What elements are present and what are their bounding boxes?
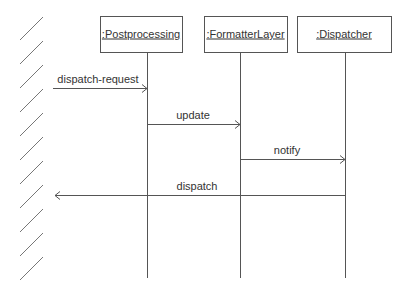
message-label: dispatch-request (57, 73, 138, 86)
boundary-hatch-line (20, 209, 43, 232)
message-label: update (176, 109, 210, 122)
sequence-diagram: :Postprocessing:FormatterLayer:Dispatche… (0, 0, 406, 295)
participant-label: :FormatterLayer (206, 28, 284, 41)
participant-label: :Postprocessing (102, 28, 180, 41)
boundary-hatch-line (20, 137, 43, 160)
participant-label: :Dispatcher (316, 28, 372, 41)
boundary-hatch-line (20, 65, 43, 88)
boundary-hatch-line (20, 89, 43, 112)
message-label: dispatch (177, 180, 218, 193)
diagram-lines (0, 0, 406, 295)
boundary-hatch-line (20, 257, 43, 280)
boundary-hatch-line (20, 113, 43, 136)
boundary-hatch-line (20, 17, 43, 40)
boundary-hatch-line (20, 161, 43, 184)
boundary-hatch-line (20, 233, 43, 256)
boundary-hatch-line (20, 185, 43, 208)
boundary-hatch-line (20, 41, 43, 64)
message-label: notify (274, 144, 300, 157)
